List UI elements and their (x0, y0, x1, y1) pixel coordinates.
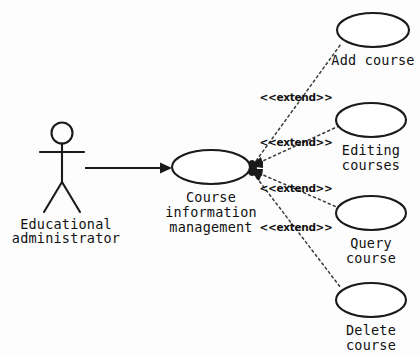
use-case-diagram: Educational administrator Course informa… (0, 0, 420, 356)
editing-courses-label-line1: Editing (342, 142, 400, 158)
actor-right-leg-line (62, 182, 80, 212)
actor-head-icon (52, 123, 73, 144)
query-course-ellipse (336, 196, 406, 230)
stereotype-label-delete-course: <<extend>> (259, 221, 332, 233)
main-use-case-ellipse (172, 150, 250, 184)
delete-course-ellipse (336, 283, 406, 317)
use-case-editing-courses[interactable]: Editing courses (336, 103, 406, 173)
add-course-ellipse (337, 13, 409, 47)
stereotype-labels: <<extend>> <<extend>> <<extend>> <<exten… (259, 91, 332, 233)
stereotype-label-query-course: <<extend>> (259, 182, 332, 194)
use-case-query-course[interactable]: Query course (336, 196, 406, 266)
actor-left-leg-line (44, 182, 62, 212)
use-case-course-information-management[interactable]: Course information management (165, 150, 257, 235)
association-arrowhead-icon (160, 163, 172, 174)
actor-label-line2: administrator (12, 230, 120, 246)
association-actor-to-main (85, 163, 172, 174)
main-use-case-label-line1: Course (186, 189, 236, 205)
extend-relationships (247, 44, 341, 288)
delete-course-label-line2: course (346, 337, 396, 353)
stereotype-label-add-course: <<extend>> (259, 91, 332, 103)
stereotype-label-editing-courses: <<extend>> (259, 136, 332, 148)
query-course-label-line1: Query (350, 235, 392, 251)
main-use-case-label-line3: management (169, 219, 252, 235)
delete-course-label-line1: Delete (346, 322, 396, 338)
uml-diagram-canvas: Educational administrator Course informa… (0, 0, 420, 356)
query-course-label-line2: course (346, 250, 396, 266)
use-case-add-course[interactable]: Add course (331, 13, 414, 68)
add-course-label-line1: Add course (331, 52, 414, 68)
main-use-case-label-line2: information (165, 204, 257, 220)
editing-courses-label-line2: courses (342, 157, 400, 173)
use-case-delete-course[interactable]: Delete course (336, 283, 406, 353)
editing-courses-ellipse (336, 103, 406, 137)
actor-educational-administrator[interactable]: Educational administrator (12, 123, 120, 247)
